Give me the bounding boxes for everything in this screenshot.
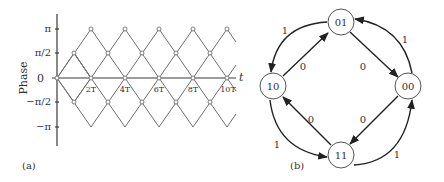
xtick-8T: 8T: [188, 85, 199, 94]
svg-text:11: 11: [335, 150, 348, 161]
phase-trellis-plot: π π/2 0 −π/2 −π Phase 2T 4T 6T 8T 10T t …: [17, 14, 244, 171]
label-00-01: 1: [402, 34, 408, 45]
arrow-00-to-11: [350, 96, 398, 144]
svg-text:10: 10: [267, 81, 280, 92]
label-01-10: 1: [282, 25, 288, 36]
label-01-00: 0: [360, 61, 366, 72]
x-axis-label: t: [239, 71, 244, 84]
state-diagram: 01 00 11 10 0 1 0 1 0 1 0 1 (b): [260, 9, 421, 171]
label-10-11: 1: [274, 139, 280, 150]
xtick-4T: 4T: [120, 85, 131, 94]
svg-text:00: 00: [402, 81, 415, 92]
ytick-pi-half: π/2: [35, 47, 51, 58]
xtick-10T: 10T: [220, 85, 236, 94]
state-00: 00: [395, 73, 421, 99]
figure: π π/2 0 −π/2 −π Phase 2T 4T 6T 8T 10T t …: [0, 0, 444, 182]
arrow-11-to-00: [354, 100, 412, 165]
label-00-11: 0: [360, 114, 366, 125]
xtick-6T: 6T: [154, 85, 165, 94]
label-10-01: 0: [300, 61, 306, 72]
ytick-neg-pi: −π: [36, 121, 51, 132]
panel-b-label: (b): [290, 160, 304, 171]
ytick-neg-pi-half: −π/2: [26, 96, 51, 107]
state-01: 01: [328, 9, 354, 35]
state-10: 10: [260, 73, 286, 99]
panel-a-label: (a): [22, 160, 36, 171]
svg-text:01: 01: [335, 17, 348, 28]
label-11-10: 0: [308, 114, 314, 125]
state-11: 11: [328, 142, 354, 168]
ytick-pi: π: [44, 23, 51, 34]
ytick-zero: 0: [37, 72, 44, 85]
y-axis-label: Phase: [17, 61, 30, 94]
arrow-01-to-00: [350, 32, 398, 77]
xtick-2T: 2T: [86, 85, 97, 94]
label-11-00: 1: [394, 149, 400, 160]
